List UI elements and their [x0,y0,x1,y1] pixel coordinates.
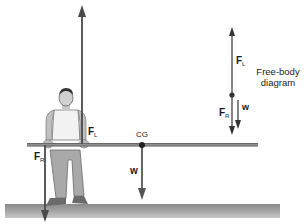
weight-label: w [130,166,138,176]
fbd-force-right-label: FR [219,108,229,119]
center-of-gravity-dot [139,142,145,148]
center-of-gravity-label: CG [136,131,148,139]
free-body-illustration: FL FR CG w FL FR w Free-body diagram [0,0,307,224]
force-right-label: FR [34,152,44,163]
free-body-diagram [229,27,241,135]
diagram-graphics [0,0,307,224]
caption-line-2: diagram [251,78,305,89]
fbd-force-left-label: FL [236,56,245,67]
free-body-caption: Free-body diagram [251,67,305,89]
force-left-label: FL [88,127,97,138]
weight-arrow [138,145,146,200]
fbd-weight-label: w [242,103,249,112]
